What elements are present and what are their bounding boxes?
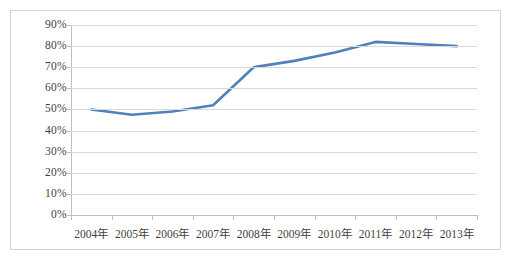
gridline-20pct: [71, 173, 477, 174]
y-axis-tick-label: 50%: [19, 104, 67, 116]
x-axis-tick-mark: [477, 215, 478, 220]
y-axis-tick-label: 30%: [19, 146, 67, 158]
y-axis-tick-mark: [67, 88, 71, 89]
x-axis-tick-mark: [233, 215, 234, 220]
x-axis-tick-mark: [315, 215, 316, 220]
plot-area: [71, 25, 477, 215]
chart-container: 0%10%20%30%40%50%60%70%80%90% 2004年2005年…: [10, 10, 501, 250]
y-axis-tick-label: 90%: [19, 19, 67, 31]
y-axis-tick-mark: [67, 25, 71, 26]
y-axis-tick-label: 60%: [19, 83, 67, 95]
x-axis-tick-label: 2006年: [152, 223, 193, 245]
gridline-60pct: [71, 88, 477, 89]
x-axis-tick-mark: [112, 215, 113, 220]
x-axis-tick-label: 2008年: [233, 223, 274, 245]
y-axis-tick-mark: [67, 109, 71, 110]
x-axis-tick-mark: [436, 215, 437, 220]
gridline-10pct: [71, 194, 477, 195]
x-axis-tick-mark: [396, 215, 397, 220]
y-axis-tick-label: 20%: [19, 167, 67, 179]
y-axis-tick-label: 80%: [19, 40, 67, 52]
gridline-50pct: [71, 109, 477, 110]
x-axis-tick-mark: [152, 215, 153, 220]
y-axis-tick-mark: [67, 46, 71, 47]
y-axis-tick-label: 0%: [19, 209, 67, 221]
gridline-90pct: [71, 25, 477, 26]
x-axis-label-group: 2004年2005年2006年2007年2008年2009年2010年2011年…: [71, 223, 477, 245]
y-axis-tick-label: 70%: [19, 61, 67, 73]
y-axis-tick-label: 10%: [19, 188, 67, 200]
y-axis-tick-mark: [67, 67, 71, 68]
x-axis-tick-label: 2007年: [193, 223, 234, 245]
y-axis-tick-mark: [67, 194, 71, 195]
y-axis-tick-mark: [67, 131, 71, 132]
y-axis-tick-mark: [67, 173, 71, 174]
x-axis-tick-mark: [355, 215, 356, 220]
series-line-2004-2013: [91, 42, 456, 115]
y-axis-tick-mark: [67, 152, 71, 153]
x-axis-tick-label: 2013年: [436, 223, 477, 245]
x-axis-tick-label: 2011年: [355, 223, 396, 245]
gridline-70pct: [71, 67, 477, 68]
y-axis-label-group: 0%10%20%30%40%50%60%70%80%90%: [11, 25, 67, 215]
x-axis-tick-label: 2009年: [274, 223, 315, 245]
x-axis-tick-label: 2005年: [112, 223, 153, 245]
x-axis-tick-label: 2012年: [396, 223, 437, 245]
x-axis-tick-label: 2010年: [315, 223, 356, 245]
series-line-chart: [71, 25, 477, 215]
x-axis-tick-mark: [274, 215, 275, 220]
gridline-30pct: [71, 152, 477, 153]
gridline-80pct: [71, 46, 477, 47]
x-axis-tick-label: 2004年: [71, 223, 112, 245]
x-axis-tick-mark: [193, 215, 194, 220]
y-axis-tick-label: 40%: [19, 125, 67, 137]
x-axis-tick-mark: [71, 215, 72, 220]
gridline-40pct: [71, 131, 477, 132]
